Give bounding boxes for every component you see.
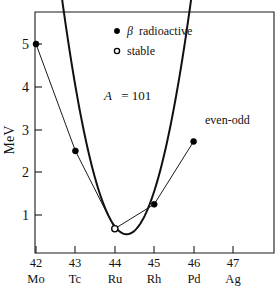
data-point-radioactive-tc: [72, 148, 78, 154]
x-element-label-tc: Tc: [69, 272, 82, 286]
x-tick-number-44: 44: [109, 256, 122, 270]
legend-stable-label: stable: [127, 44, 155, 58]
x-axis-ticks: [36, 246, 233, 253]
isobar-data-polyline: [36, 44, 194, 229]
x-element-label-rh: Rh: [147, 272, 162, 286]
y-tick-label-3: 3: [22, 123, 29, 138]
y-tick-label-1: 1: [22, 208, 29, 223]
x-element-label-ag: Ag: [225, 272, 241, 286]
x-axis-element-labels: Mo Tc Ru Rh Pd Ag: [27, 272, 241, 286]
legend-beta-symbol: β: [126, 24, 133, 38]
x-tick-number-42: 42: [30, 256, 43, 270]
y-axis-ticks: [35, 44, 42, 215]
data-point-markers: [33, 41, 197, 232]
legend-open-circle-icon: [114, 48, 119, 53]
chart-svg: 5 4 3 2 1 MeV 42 43 44 45 46 47 Mo: [0, 0, 279, 289]
x-tick-number-43: 43: [69, 256, 82, 270]
even-odd-curve-label: even-odd: [205, 113, 250, 127]
x-axis-number-labels: 42 43 44 45 46 47: [30, 256, 240, 270]
x-element-label-pd: Pd: [187, 272, 201, 286]
legend-beta-label: radioactive: [139, 24, 192, 38]
y-axis-tick-labels: 5 4 3 2 1: [22, 37, 29, 223]
y-axis-title: MeV: [2, 126, 17, 155]
mass-number-symbol: A: [103, 88, 112, 103]
data-point-stable-ru: [112, 226, 118, 232]
x-element-label-ru: Ru: [108, 272, 123, 286]
svg-text:A = 101: A = 101: [103, 88, 151, 103]
chart-legend: β radioactive stable: [114, 24, 192, 58]
legend-filled-circle-icon: [114, 28, 119, 33]
y-tick-label-2: 2: [22, 165, 29, 180]
nuclear-mass-parabola-figure: 5 4 3 2 1 MeV 42 43 44 45 46 47 Mo: [0, 0, 279, 289]
x-tick-number-46: 46: [188, 256, 201, 270]
x-tick-number-45: 45: [148, 256, 161, 270]
x-tick-number-47: 47: [227, 256, 240, 270]
mass-number-annotation: A = 101: [103, 88, 151, 103]
data-point-radioactive-mo: [33, 41, 39, 47]
x-element-label-mo: Mo: [27, 272, 44, 286]
y-tick-label-5: 5: [22, 37, 29, 52]
data-point-radioactive-rh: [151, 201, 157, 207]
mass-number-value: = 101: [121, 88, 151, 103]
y-tick-label-4: 4: [22, 80, 29, 95]
data-point-radioactive-pd: [191, 138, 197, 144]
